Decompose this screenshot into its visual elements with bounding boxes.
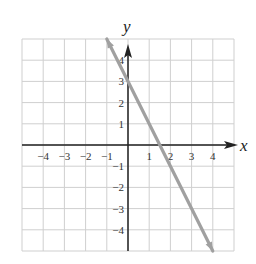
y-tick-label: 2 — [119, 97, 125, 109]
y-tick-label: −2 — [112, 181, 124, 193]
x-tick-label: −2 — [80, 150, 92, 162]
y-axis-label: y — [121, 17, 131, 36]
y-tick-label: 1 — [119, 118, 125, 130]
axes — [22, 44, 238, 251]
x-tick-label: −4 — [37, 150, 49, 162]
x-axis-label: x — [239, 136, 248, 155]
y-tick-label: −1 — [112, 160, 124, 172]
y-tick-label: 3 — [119, 75, 125, 87]
x-tick-label: −1 — [101, 150, 113, 162]
y-tick-label: −3 — [112, 203, 124, 215]
x-tick-label: 4 — [210, 150, 216, 162]
x-tick-label: 1 — [146, 150, 152, 162]
line-arrow-start-icon — [107, 39, 114, 49]
line-arrow-end-icon — [206, 241, 213, 251]
x-tick-label: −3 — [59, 150, 71, 162]
coordinate-plane: −4−3−2−112344321−1−2−3−4 x y — [0, 0, 256, 264]
y-tick-label: −4 — [112, 224, 124, 236]
x-tick-label: 3 — [189, 150, 195, 162]
